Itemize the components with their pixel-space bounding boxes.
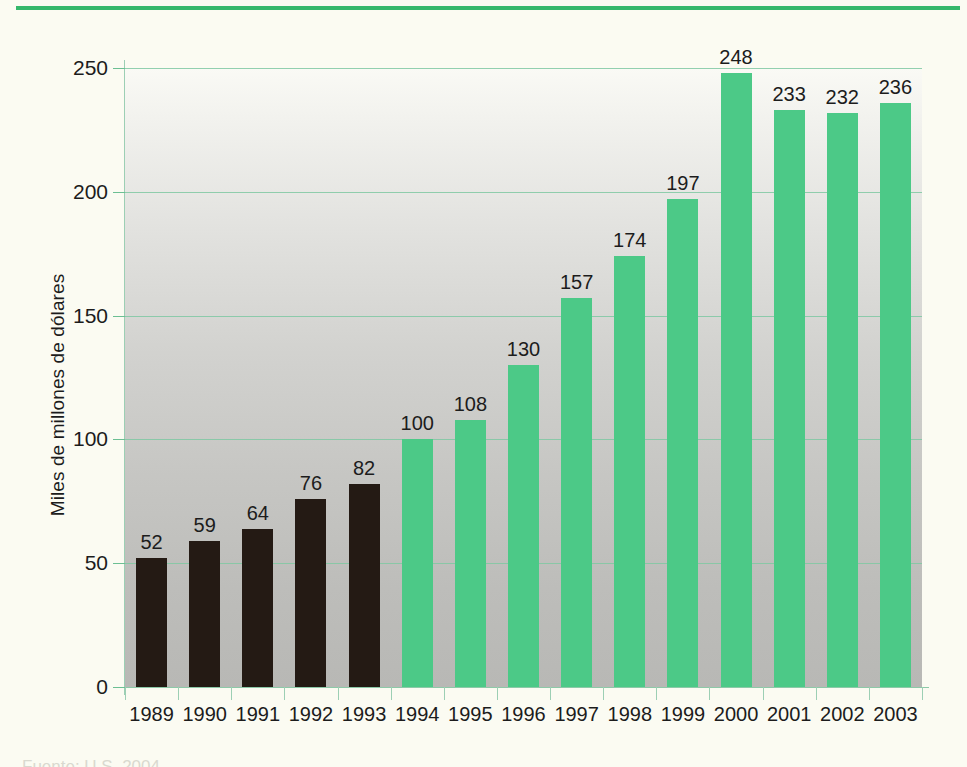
x-tick-mark-1989 xyxy=(125,687,126,700)
x-tick-label-2003: 2003 xyxy=(873,703,918,726)
y-axis-tick-labels: 050100150200250 xyxy=(30,0,108,767)
x-tick-mark-end xyxy=(922,687,923,700)
y-tick-label-200: 200 xyxy=(38,180,108,204)
bar-1990[interactable] xyxy=(189,541,220,687)
x-tick-mark-2000 xyxy=(709,687,710,700)
plot-area xyxy=(125,68,922,687)
bar-value-label-1996: 130 xyxy=(507,338,540,361)
bar-value-label-2000: 248 xyxy=(719,46,752,69)
bar-1995[interactable] xyxy=(455,420,486,687)
x-tick-mark-2001 xyxy=(763,687,764,700)
x-tick-label-1997: 1997 xyxy=(554,703,599,726)
y-tick-mark-50 xyxy=(113,563,125,564)
bar-value-label-1990: 59 xyxy=(194,514,216,537)
y-tick-label-0: 0 xyxy=(38,675,108,699)
bar-1991[interactable] xyxy=(242,529,273,687)
x-tick-mark-2003 xyxy=(869,687,870,700)
x-tick-label-2000: 2000 xyxy=(714,703,759,726)
bar-1992[interactable] xyxy=(295,499,326,687)
x-tick-label-1990: 1990 xyxy=(182,703,227,726)
y-tick-mark-0 xyxy=(113,687,125,688)
bar-1993[interactable] xyxy=(349,484,380,687)
x-tick-mark-1999 xyxy=(656,687,657,700)
bar-value-label-1997: 157 xyxy=(560,271,593,294)
x-tick-label-1995: 1995 xyxy=(448,703,493,726)
bar-chart-figure: Miles de millones de dólares 05010015020… xyxy=(0,0,967,767)
bar-value-label-1994: 100 xyxy=(401,412,434,435)
bar-2003[interactable] xyxy=(880,103,911,687)
y-tick-label-150: 150 xyxy=(38,304,108,328)
bar-value-label-1989: 52 xyxy=(140,531,162,554)
bar-1989[interactable] xyxy=(136,558,167,687)
source-note: Fuente: U.S. 2004 xyxy=(22,757,160,767)
y-axis-line xyxy=(124,60,125,695)
y-tick-mark-100 xyxy=(113,439,125,440)
x-tick-mark-1996 xyxy=(497,687,498,700)
bar-value-label-1995: 108 xyxy=(454,393,487,416)
bar-2001[interactable] xyxy=(774,110,805,687)
y-tick-mark-200 xyxy=(113,192,125,193)
x-tick-label-1993: 1993 xyxy=(342,703,387,726)
x-tick-mark-1997 xyxy=(550,687,551,700)
x-tick-mark-1993 xyxy=(338,687,339,700)
bar-value-label-1992: 76 xyxy=(300,472,322,495)
bar-value-label-2003: 236 xyxy=(879,76,912,99)
x-tick-mark-1991 xyxy=(231,687,232,700)
x-tick-label-1992: 1992 xyxy=(289,703,334,726)
x-tick-label-1999: 1999 xyxy=(661,703,706,726)
bar-1996[interactable] xyxy=(508,365,539,687)
x-tick-label-1994: 1994 xyxy=(395,703,440,726)
bar-value-label-1999: 197 xyxy=(666,172,699,195)
x-tick-label-2001: 2001 xyxy=(767,703,812,726)
bar-1999[interactable] xyxy=(667,199,698,687)
x-tick-mark-2002 xyxy=(816,687,817,700)
x-tick-label-1998: 1998 xyxy=(608,703,653,726)
y-tick-label-250: 250 xyxy=(38,56,108,80)
bar-1998[interactable] xyxy=(614,256,645,687)
bar-1994[interactable] xyxy=(402,439,433,687)
bar-value-label-1998: 174 xyxy=(613,229,646,252)
bar-value-label-2001: 233 xyxy=(772,83,805,106)
y-tick-label-50: 50 xyxy=(38,551,108,575)
x-tick-mark-1998 xyxy=(603,687,604,700)
x-axis-line xyxy=(117,687,929,688)
bar-1997[interactable] xyxy=(561,298,592,687)
x-tick-label-1989: 1989 xyxy=(129,703,174,726)
bar-2002[interactable] xyxy=(827,113,858,687)
x-tick-mark-1990 xyxy=(178,687,179,700)
y-tick-mark-250 xyxy=(113,68,125,69)
x-tick-mark-1992 xyxy=(284,687,285,700)
y-tick-mark-150 xyxy=(113,316,125,317)
x-tick-mark-1994 xyxy=(391,687,392,700)
bar-value-label-2002: 232 xyxy=(826,86,859,109)
bar-value-label-1991: 64 xyxy=(247,502,269,525)
x-tick-mark-1995 xyxy=(444,687,445,700)
y-tick-label-100: 100 xyxy=(38,427,108,451)
x-tick-label-1996: 1996 xyxy=(501,703,546,726)
x-tick-label-1991: 1991 xyxy=(236,703,281,726)
x-tick-label-2002: 2002 xyxy=(820,703,865,726)
gridline-250 xyxy=(125,68,922,69)
top-rule-divider xyxy=(16,6,960,10)
bar-2000[interactable] xyxy=(721,73,752,687)
bar-value-label-1993: 82 xyxy=(353,457,375,480)
